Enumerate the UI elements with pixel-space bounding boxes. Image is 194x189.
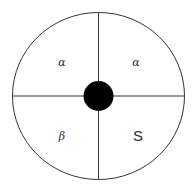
quadrant-label-top-left: α bbox=[58, 56, 66, 69]
quadrant-label-bottom-left: β bbox=[58, 130, 65, 143]
quadrant-label-bottom-right: S bbox=[133, 127, 143, 144]
center-dot bbox=[84, 81, 114, 111]
quadrant-diagram: α α β S bbox=[0, 0, 194, 189]
quadrant-label-top-right: α bbox=[132, 56, 140, 69]
